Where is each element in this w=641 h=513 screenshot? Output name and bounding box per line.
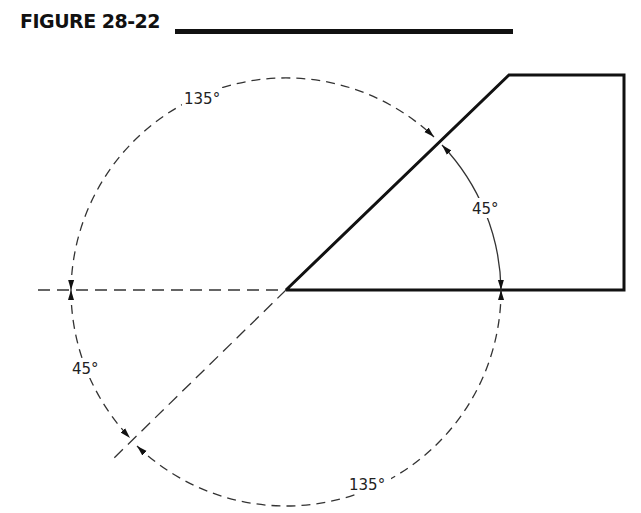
arc-135-lower (137, 290, 501, 506)
label-45-right: 45° (472, 200, 499, 218)
arc-135-upper (71, 78, 434, 290)
label-45-left: 45° (72, 360, 99, 378)
label-135-upper: 135° (184, 90, 220, 108)
label-135-lower: 135° (349, 476, 385, 494)
part-outline (286, 75, 624, 290)
diagonal-extension-line (112, 290, 286, 460)
angle-diagram: 135° 45° 45° 135° (0, 0, 641, 513)
